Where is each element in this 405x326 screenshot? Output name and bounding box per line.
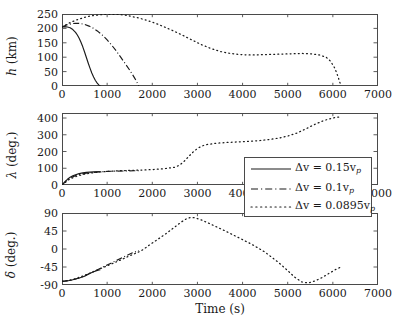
plot-panel-altitude: 0501001502002500100020003000400050006000… xyxy=(62,14,378,86)
y-tick-label: 300 xyxy=(37,129,58,140)
y-tick-label: 0 xyxy=(51,180,58,191)
plot-canvas-altitude xyxy=(62,14,378,86)
legend-row-0: Δv = 0.15vp xyxy=(245,159,371,179)
legend-line-solid-icon xyxy=(250,163,292,175)
x-tick-label: 1000 xyxy=(93,188,121,199)
y-axis-label-latitude: δ (deg.) xyxy=(5,232,17,279)
x-tick-label: 3000 xyxy=(183,288,211,299)
x-tick-label: 1000 xyxy=(93,89,121,100)
series-0-2 xyxy=(62,14,341,86)
x-tick-label: 3000 xyxy=(183,89,211,100)
x-axis-label: Time (s) xyxy=(62,303,378,315)
x-tick-label: 4000 xyxy=(229,288,257,299)
legend-row-2: Δv = 0.0895vp xyxy=(245,197,371,217)
y-tick-label: 0 xyxy=(51,81,58,92)
figure-container: 0501001502002500100020003000400050006000… xyxy=(0,0,405,326)
y-tick-label: 50 xyxy=(44,66,58,77)
y-tick-label: 200 xyxy=(37,23,58,34)
x-tick-label: 2000 xyxy=(138,188,166,199)
y-tick-label: 0 xyxy=(51,244,58,255)
legend-row-1: Δv = 0.1vp xyxy=(245,179,371,199)
legend-line-dashdot-icon xyxy=(250,183,292,195)
legend-label-2: Δv = 0.0895vp xyxy=(295,200,375,213)
x-tick-label: 6000 xyxy=(319,89,347,100)
x-tick-label: 2000 xyxy=(138,288,166,299)
plot-panel-latitude: -90-450459001000200030004000500060007000 xyxy=(62,213,378,285)
x-tick-label: 6000 xyxy=(319,288,347,299)
legend-line-dotted-icon xyxy=(250,201,292,213)
x-tick-label: 7000 xyxy=(364,288,392,299)
x-tick-label: 0 xyxy=(59,89,66,100)
y-tick-label: 45 xyxy=(44,226,58,237)
y-tick-label: 100 xyxy=(37,52,58,63)
y-tick-label: 150 xyxy=(37,37,58,48)
x-tick-label: 7000 xyxy=(364,89,392,100)
y-tick-label: 200 xyxy=(37,146,58,157)
x-tick-label: 0 xyxy=(59,288,66,299)
legend-label-1: Δv = 0.1vp xyxy=(295,182,354,195)
y-tick-label: 400 xyxy=(37,113,58,124)
legend-label-0: Δv = 0.15vp xyxy=(295,162,361,175)
x-tick-label: 2000 xyxy=(138,89,166,100)
x-tick-label: 5000 xyxy=(274,288,302,299)
y-axis-label-longitude: λ (deg.) xyxy=(6,131,18,178)
y-tick-label: 90 xyxy=(44,208,58,219)
plot-canvas-latitude xyxy=(62,213,378,285)
x-tick-label: 0 xyxy=(59,188,66,199)
series-0-1 xyxy=(62,23,139,86)
series-1-0 xyxy=(62,172,100,185)
y-tick-label: 100 xyxy=(37,163,58,174)
legend-box: Δv = 0.15vp Δv = 0.1vp Δv = 0.0895vp xyxy=(244,157,372,217)
series-2-2 xyxy=(62,217,341,283)
x-tick-label: 4000 xyxy=(229,89,257,100)
y-axis-label-altitude: h (km) xyxy=(6,36,18,76)
series-2-1 xyxy=(62,251,139,282)
x-tick-label: 5000 xyxy=(274,89,302,100)
x-tick-label: 3000 xyxy=(183,188,211,199)
y-tick-label: 250 xyxy=(37,9,58,20)
series-0-0 xyxy=(62,27,100,86)
y-tick-label: -90 xyxy=(40,280,58,291)
x-tick-label: 1000 xyxy=(93,288,121,299)
y-tick-label: -45 xyxy=(40,262,58,273)
